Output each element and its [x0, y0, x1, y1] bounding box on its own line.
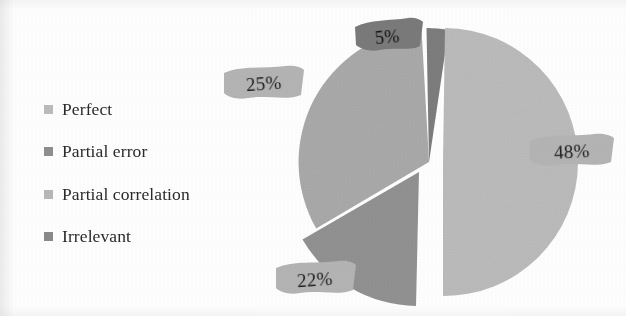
- legend-label-irrelevant: Irrelevant: [62, 226, 131, 247]
- legend-swatch-partial-error: [44, 147, 53, 156]
- legend-item-perfect: Perfect: [34, 88, 244, 131]
- pie-chart-figure: Perfect Partial error Partial correlatio…: [0, 0, 626, 316]
- legend-swatch-partial-correlation: [44, 190, 53, 199]
- legend-label-partial-correlation: Partial correlation: [62, 184, 190, 205]
- callout-label-partial-error: 22%: [297, 268, 334, 292]
- callout-partial-error: 22%: [274, 258, 358, 300]
- chart-legend: Perfect Partial error Partial correlatio…: [34, 88, 244, 258]
- legend-swatch-irrelevant: [44, 232, 53, 241]
- callout-label-perfect: 48%: [554, 140, 591, 164]
- callout-irrelevant: 5%: [352, 16, 426, 56]
- callout-label-partial-correlation: 25%: [246, 72, 283, 96]
- callout-label-irrelevant: 5%: [374, 26, 400, 49]
- legend-label-partial-error: Partial error: [62, 141, 147, 162]
- callout-perfect: 48%: [528, 130, 616, 172]
- legend-item-irrelevant: Irrelevant: [34, 216, 244, 259]
- legend-item-partial-error: Partial error: [34, 131, 244, 174]
- legend-item-partial-correlation: Partial correlation: [34, 173, 244, 216]
- callout-partial-correlation: 25%: [222, 63, 306, 105]
- legend-swatch-perfect: [44, 105, 53, 114]
- legend-label-perfect: Perfect: [62, 99, 112, 120]
